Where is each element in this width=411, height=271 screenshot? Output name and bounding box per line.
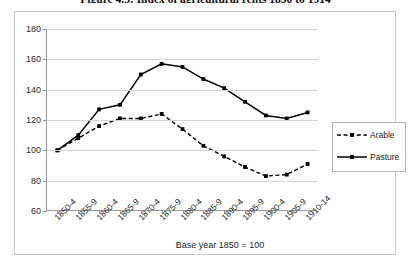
- y-tick-60: [43, 211, 47, 212]
- data-point-pasture-1895-9[interactable]: [243, 100, 247, 104]
- data-point-arable-1890-4[interactable]: [222, 155, 226, 159]
- data-point-pasture-1900-4[interactable]: [264, 114, 268, 118]
- chart-legend: Arable Pasture: [332, 122, 406, 172]
- data-point-pasture-1860-4[interactable]: [97, 107, 101, 111]
- legend-item-arable[interactable]: Arable: [337, 129, 405, 141]
- y-tick-180: [43, 29, 47, 30]
- y-axis-label-100: 100: [26, 146, 41, 155]
- data-point-arable-1880-4[interactable]: [181, 127, 185, 131]
- y-axis-label-180: 180: [26, 25, 41, 34]
- data-point-pasture-1885-9[interactable]: [201, 77, 205, 81]
- data-point-arable-1875-9[interactable]: [160, 112, 164, 116]
- gridline-y-140: [47, 90, 318, 91]
- y-tick-120: [43, 120, 47, 121]
- y-tick-100: [43, 150, 47, 151]
- data-point-pasture-1910-14[interactable]: [306, 111, 310, 115]
- data-point-arable-1910-14[interactable]: [306, 162, 310, 166]
- data-point-arable-1900-4[interactable]: [264, 174, 268, 178]
- data-point-pasture-1880-4[interactable]: [181, 65, 185, 69]
- chart-frame: 60801001201401601801850-41855-91860-4186…: [14, 11, 396, 255]
- series-line-pasture: [57, 64, 307, 150]
- data-point-arable-1885-9[interactable]: [201, 144, 205, 148]
- gridline-y-120: [47, 120, 318, 121]
- y-axis-label-160: 160: [26, 55, 41, 64]
- legend-label-pasture: Pasture: [370, 152, 399, 163]
- plot-area: 60801001201401601801850-41855-91860-4186…: [46, 29, 317, 211]
- gridline-y-180: [47, 29, 318, 30]
- legend-label-arable: Arable: [370, 130, 395, 141]
- legend-swatch-pasture: [337, 151, 367, 163]
- data-point-pasture-1875-9[interactable]: [160, 62, 164, 66]
- y-axis-label-140: 140: [26, 85, 41, 94]
- data-point-arable-1905-9[interactable]: [285, 173, 289, 177]
- figure-title: Figure 4.5: Index of agricultural rents …: [0, 0, 411, 3]
- data-point-arable-1860-4[interactable]: [97, 124, 101, 128]
- data-point-pasture-1865-9[interactable]: [118, 103, 122, 107]
- y-axis-label-80: 80: [31, 176, 41, 185]
- legend-swatch-arable: [337, 129, 367, 141]
- gridline-y-160: [47, 59, 318, 60]
- data-point-pasture-1870-4[interactable]: [139, 73, 143, 77]
- gridline-y-80: [47, 181, 318, 182]
- y-axis-label-120: 120: [26, 116, 41, 125]
- legend-item-pasture[interactable]: Pasture: [337, 151, 405, 163]
- gridline-y-100: [47, 150, 318, 151]
- y-axis-label-60: 60: [31, 207, 41, 216]
- data-point-pasture-1855-9[interactable]: [76, 133, 80, 137]
- figure-container: Figure 4.5: Index of agricultural rents …: [0, 0, 411, 271]
- chart-caption: Base year 1850 = 100: [29, 240, 411, 251]
- y-tick-80: [43, 181, 47, 182]
- series-line-arable: [57, 114, 307, 176]
- y-tick-140: [43, 90, 47, 91]
- y-tick-160: [43, 59, 47, 60]
- data-point-arable-1895-9[interactable]: [243, 165, 247, 169]
